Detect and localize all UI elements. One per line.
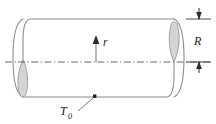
r-arrow-head-icon xyxy=(93,35,100,44)
surface-temperature-subscript: 0 xyxy=(68,112,72,121)
cylinder-top-edge xyxy=(23,19,174,62)
left-endcap-lens-shade xyxy=(18,60,28,97)
cylinder-diagram-canvas: r R T 0 xyxy=(0,0,216,124)
radius-label: R xyxy=(193,34,202,48)
right-endcap-lens-shade xyxy=(169,22,179,62)
cylinder-body-group xyxy=(13,19,184,97)
cylinder-bottom-edge xyxy=(23,62,174,97)
radial-coordinate-annotation: r xyxy=(93,35,108,62)
surface-temperature-label: T xyxy=(60,104,68,118)
radius-dimension-annotation: R xyxy=(186,8,211,73)
cylinder-diagram-figure: r R T 0 xyxy=(0,0,216,124)
surface-temperature-annotation: T 0 xyxy=(60,95,96,121)
r-label: r xyxy=(103,36,108,48)
t0-surface-marker-dot xyxy=(93,95,96,98)
t0-leader-line xyxy=(78,98,93,111)
endcap-shading-group xyxy=(18,22,179,97)
